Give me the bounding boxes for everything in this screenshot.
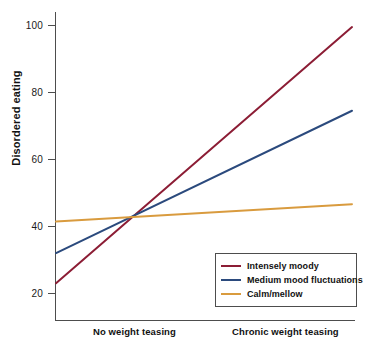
y-axis-tick: 60	[48, 159, 55, 160]
legend-item-label: Calm/mellow	[247, 289, 303, 299]
y-axis-tick-label: 100	[26, 20, 43, 31]
y-axis-line	[55, 12, 56, 320]
chart-figure: Disordered eating 10080604020 No weight …	[0, 0, 371, 347]
y-axis-title: Disordered eating	[10, 58, 22, 178]
legend-color-swatch	[221, 293, 241, 295]
series-line-2	[56, 204, 352, 221]
legend-item-label: Medium mood fluctuations	[247, 275, 363, 285]
y-axis-tick: 100	[48, 25, 55, 26]
legend-color-swatch	[221, 279, 241, 281]
y-axis-tick: 20	[48, 293, 55, 294]
chart-legend: Intensely moodyMedium mood fluctuationsC…	[215, 253, 357, 307]
y-axis-tick-label: 20	[31, 288, 43, 299]
y-axis-tick-label: 60	[31, 154, 43, 165]
legend-item-label: Intensely moody	[247, 261, 319, 271]
x-axis-line	[55, 320, 355, 321]
series-line-0	[56, 27, 352, 283]
y-axis-tick: 40	[48, 226, 55, 227]
legend-item[interactable]: Intensely moody	[221, 259, 350, 273]
x-axis-category-label: No weight teasing	[93, 326, 176, 337]
y-axis-tick: 80	[48, 92, 55, 93]
x-axis-category-label: Chronic weight teasing	[232, 326, 339, 337]
y-axis-tick-label: 40	[31, 221, 43, 232]
series-line-1	[56, 111, 352, 253]
legend-item[interactable]: Medium mood fluctuations	[221, 273, 350, 287]
legend-color-swatch	[221, 265, 241, 267]
legend-item[interactable]: Calm/mellow	[221, 287, 350, 301]
y-axis-tick-label: 80	[31, 87, 43, 98]
